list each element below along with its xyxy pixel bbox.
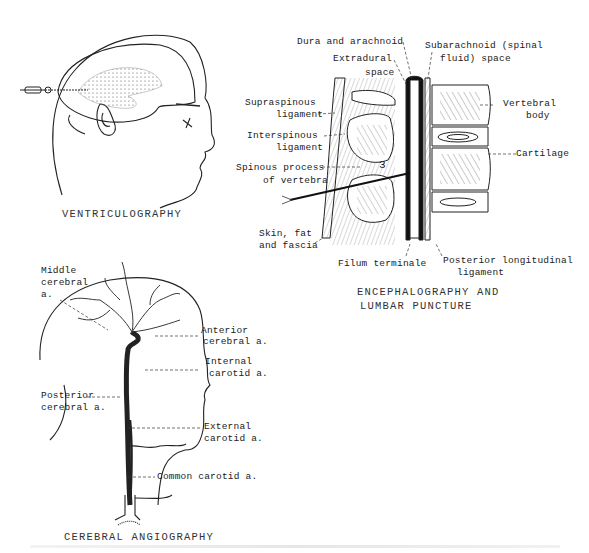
label-internal-carotid-line1: Internal xyxy=(205,356,252,367)
label-middle-cerebral-line3: a. xyxy=(41,289,53,300)
label-vertebral-line1: Vertebral xyxy=(503,98,556,109)
label-extradural-line1: Extradural xyxy=(333,53,392,64)
label-filum-terminale: Filum terminale xyxy=(338,258,427,269)
label-posterior-cerebral-line2: cerebral a. xyxy=(41,402,106,413)
label-posterior-longitudinal-line2: ligament xyxy=(457,267,504,278)
label-middle-cerebral-line2: cerebral xyxy=(41,277,88,288)
angiography-caption: CEREBRAL ANGIOGRAPHY xyxy=(64,531,214,544)
label-anterior-cerebral-line1: Anterior xyxy=(201,325,248,336)
encephalography-caption-line2: LUMBAR PUNCTURE xyxy=(360,300,473,313)
label-interspinous-line1: Interspinous xyxy=(247,130,318,141)
label-posterior-longitudinal-line1: Posterior longitudinal xyxy=(443,255,573,266)
label-middle-cerebral-line1: Middle xyxy=(41,265,76,276)
label-extradural-line2: space xyxy=(365,67,395,78)
label-internal-carotid-line2: carotid a. xyxy=(209,368,268,379)
label-subarachnoid-line1: Subarachnoid (spinal xyxy=(425,40,543,51)
ventricle-region xyxy=(78,68,162,109)
label-external-carotid-line2: carotid a. xyxy=(204,433,263,444)
encephalography-caption-line1: ENCEPHALOGRAPHY AND xyxy=(357,286,500,299)
label-dura-arachnoid: Dura and arachnoid xyxy=(297,36,403,47)
faint-text-bleed xyxy=(30,545,560,548)
label-skin-line2: and fascia xyxy=(259,240,318,251)
label-spinous-process-line1: Spinous process xyxy=(236,162,325,173)
label-posterior-cerebral-line1: Posterior xyxy=(41,390,94,401)
label-subarachnoid-line2: fluid) space xyxy=(440,53,511,64)
label-supraspinous-line1: Supraspinous xyxy=(245,97,316,108)
label-interspinous-line2: ligament xyxy=(276,142,323,153)
label-vertebral-line2: body xyxy=(526,110,550,121)
ventriculography-head-drawing xyxy=(53,35,215,208)
ventriculography-caption: VENTRICULOGRAPHY xyxy=(62,208,182,221)
label-supraspinous-line2: ligament xyxy=(276,109,323,120)
label-anterior-cerebral-line2: cerebral a. xyxy=(203,336,268,347)
label-vertebra-number: 3 xyxy=(379,160,386,171)
label-external-carotid-line1: External xyxy=(204,421,251,432)
label-skin-line1: Skin, fat xyxy=(259,228,312,239)
ventricular-needle xyxy=(20,87,88,93)
label-common-carotid: Common carotid a. xyxy=(157,471,257,482)
label-spinous-process-line2: of vertebra xyxy=(263,175,328,186)
label-cartilage: Cartilage xyxy=(516,148,569,159)
